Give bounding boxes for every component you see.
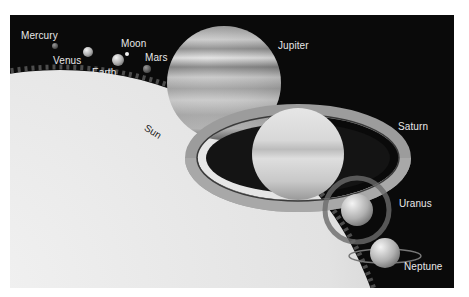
label-earth: Earth <box>92 67 116 78</box>
label-mars: Mars <box>145 52 168 63</box>
neptune-shape <box>370 238 400 268</box>
label-venus: Venus <box>53 55 81 66</box>
earth-shape <box>112 54 124 66</box>
label-uranus: Uranus <box>399 198 432 209</box>
label-mercury: Mercury <box>21 30 58 41</box>
moon-shape <box>125 52 129 56</box>
label-jupiter: Jupiter <box>278 40 309 51</box>
solar-system-figure: Mercury Venus Earth Moon Mars Jupiter Sa… <box>10 15 454 288</box>
saturn-shape <box>252 108 344 200</box>
mars-shape <box>143 65 151 73</box>
label-neptune: Neptune <box>404 261 443 272</box>
mercury-shape <box>52 43 58 49</box>
uranus-shape <box>341 194 373 226</box>
label-saturn: Saturn <box>398 121 428 132</box>
venus-shape <box>83 47 93 57</box>
label-moon: Moon <box>121 38 146 49</box>
